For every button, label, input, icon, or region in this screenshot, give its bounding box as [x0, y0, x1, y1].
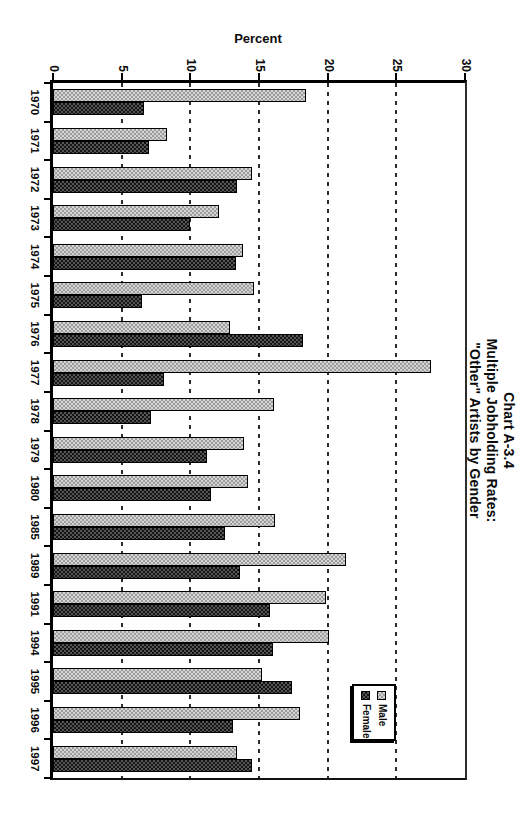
x-axis-category-label-1976: 1976: [28, 315, 41, 354]
y-axis-tick-label-30: 30: [459, 38, 473, 72]
x-axis-tick-9: [44, 430, 50, 432]
bar-group-1975: [53, 276, 465, 315]
chart-title-line-3: "Other" Artists by Gender: [466, 83, 483, 778]
bar-group-1973: [53, 199, 465, 238]
female-bar-1979: [53, 450, 207, 463]
female-bar-1974: [53, 257, 236, 270]
bar-group-1994: [53, 624, 465, 663]
female-bar-1975: [53, 295, 142, 308]
x-axis-tick-3: [44, 198, 50, 200]
female-bar-1970: [53, 102, 144, 115]
bar-group-1995: [53, 662, 465, 701]
x-axis-category-label-1980: 1980: [28, 469, 41, 508]
x-axis-tick-6: [44, 314, 50, 316]
x-axis-category-label-1995: 1995: [28, 662, 41, 701]
female-bar-1995: [53, 681, 292, 694]
female-bar-1985: [53, 527, 225, 540]
chart-title-line-2: Multiple Jobholding Rates:: [483, 83, 500, 778]
female-swatch-icon: [362, 691, 371, 700]
bar-group-1989: [53, 546, 465, 585]
plot-area: Male Female: [50, 80, 467, 780]
male-bar-1997: [53, 746, 237, 759]
x-axis-tick-1: [44, 121, 50, 123]
female-bar-1980: [53, 488, 211, 501]
x-axis-category-label-1973: 1973: [28, 199, 41, 238]
bar-group-1978: [53, 392, 465, 431]
male-bar-1985: [53, 514, 275, 527]
male-bar-1979: [53, 437, 244, 450]
female-bar-1978: [53, 411, 151, 424]
bar-group-1997: [53, 739, 465, 778]
bar-group-1991: [53, 585, 465, 624]
bar-group-1976: [53, 315, 465, 354]
chart-title-line-1: Chart A-3.4: [500, 83, 517, 778]
x-axis-tick-13: [44, 584, 50, 586]
y-axis-tick-20: [327, 73, 329, 81]
female-bar-1996: [53, 720, 233, 733]
x-axis-category-label-1972: 1972: [28, 160, 41, 199]
x-axis-category-label-1975: 1975: [28, 276, 41, 315]
x-axis-category-label-1994: 1994: [28, 624, 41, 663]
female-bar-1972: [53, 180, 237, 193]
bar-group-1977: [53, 353, 465, 392]
x-axis-category-label-1974: 1974: [28, 237, 41, 276]
male-bar-1972: [53, 167, 252, 180]
x-axis-tick-5: [44, 275, 50, 277]
x-axis-category-label-1978: 1978: [28, 392, 41, 431]
female-bar-1977: [53, 373, 164, 386]
y-axis-tick-15: [258, 73, 260, 81]
male-bar-1995: [53, 668, 262, 681]
female-bar-1989: [53, 566, 240, 579]
x-axis-tick-16: [44, 700, 50, 702]
female-bar-1997: [53, 759, 252, 772]
bar-group-1980: [53, 469, 465, 508]
male-bar-1978: [53, 398, 274, 411]
x-axis-tick-7: [44, 352, 50, 354]
male-bar-1975: [53, 282, 254, 295]
y-axis-tick-label-25: 25: [390, 38, 404, 72]
male-swatch-icon: [378, 691, 387, 700]
chart-title: Chart A-3.4 Multiple Jobholding Rates: "…: [466, 83, 517, 778]
scanned-chart-page: { "page": { "background": "#ffffff", "ch…: [0, 0, 522, 824]
rotated-chart-canvas: Chart A-3.4 Multiple Jobholding Rates: "…: [0, 0, 522, 824]
y-axis-tick-0: [52, 73, 54, 81]
y-axis-tick-label-15: 15: [253, 38, 267, 72]
x-axis-category-label-1991: 1991: [28, 585, 41, 624]
x-axis-tick-2: [44, 159, 50, 161]
x-axis-category-label-1971: 1971: [28, 122, 41, 161]
y-axis-tick-5: [121, 73, 123, 81]
bar-group-1996: [53, 701, 465, 740]
y-axis-tick-label-5: 5: [116, 38, 130, 72]
male-bar-1996: [53, 707, 300, 720]
male-bar-1991: [53, 591, 326, 604]
x-axis-tick-8: [44, 391, 50, 393]
y-axis-tick-10: [189, 73, 191, 81]
x-axis-category-label-1979: 1979: [28, 431, 41, 470]
bar-group-1985: [53, 508, 465, 547]
legend-label-male: Male: [377, 704, 387, 726]
bar-group-1970: [53, 83, 465, 122]
x-axis-tick-12: [44, 545, 50, 547]
y-axis-tick-30: [464, 73, 466, 81]
bar-group-1972: [53, 160, 465, 199]
x-axis-tick-10: [44, 468, 50, 470]
male-bar-1971: [53, 128, 167, 141]
x-axis-category-label-1985: 1985: [28, 508, 41, 547]
bar-group-1971: [53, 122, 465, 161]
y-axis-tick-label-20: 20: [322, 38, 336, 72]
legend-item-female: Female: [358, 691, 374, 735]
x-axis-category-label-1977: 1977: [28, 353, 41, 392]
male-bar-1977: [53, 360, 431, 373]
x-axis-tick-11: [44, 507, 50, 509]
female-bar-1991: [53, 604, 270, 617]
male-bar-1980: [53, 475, 248, 488]
female-bar-1976: [53, 334, 303, 347]
x-axis-tick-15: [44, 661, 50, 663]
y-axis-tick-label-0: 0: [47, 38, 61, 72]
x-axis-tick-17: [44, 738, 50, 740]
x-axis-tick-4: [44, 236, 50, 238]
y-axis-tick-25: [395, 73, 397, 81]
male-bar-1973: [53, 205, 219, 218]
x-axis-category-label-1989: 1989: [28, 546, 41, 585]
male-bar-1970: [53, 89, 306, 102]
